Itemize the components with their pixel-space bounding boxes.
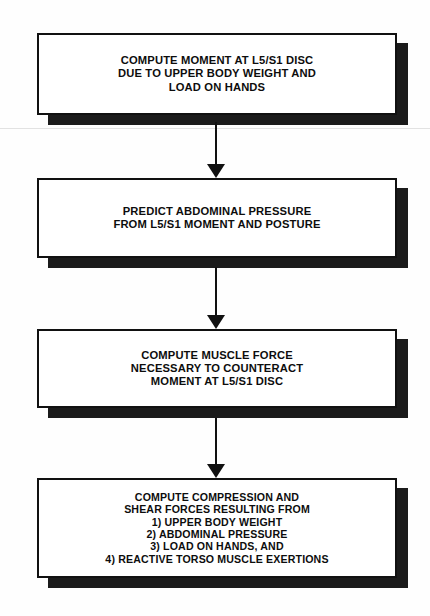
flowchart-canvas: COMPUTE MOMENT AT L5/S1 DISC DUE TO UPPE… (0, 0, 430, 616)
flow-node-4-label: COMPUTE COMPRESSION AND SHEAR FORCES RES… (97, 491, 336, 565)
flow-node-4[interactable]: COMPUTE COMPRESSION AND SHEAR FORCES RES… (37, 478, 397, 578)
flow-node-3[interactable]: COMPUTE MUSCLE FORCE NECESSARY TO COUNTE… (37, 329, 397, 408)
arrow-stem (215, 418, 217, 464)
flow-node-2[interactable]: PREDICT ABDOMINAL PRESSURE FROM L5/S1 MO… (37, 178, 397, 258)
flow-node-2-label: PREDICT ABDOMINAL PRESSURE FROM L5/S1 MO… (105, 205, 328, 231)
flow-arrow-1-2 (207, 122, 225, 178)
arrow-head-icon (207, 464, 225, 478)
flow-node-4-box: COMPUTE COMPRESSION AND SHEAR FORCES RES… (37, 478, 397, 578)
flow-node-1-label: COMPUTE MOMENT AT L5/S1 DISC DUE TO UPPE… (110, 54, 324, 94)
arrow-head-icon (207, 164, 225, 178)
flow-node-3-label: COMPUTE MUSCLE FORCE NECESSARY TO COUNTE… (123, 349, 311, 389)
flow-node-1-box: COMPUTE MOMENT AT L5/S1 DISC DUE TO UPPE… (37, 33, 397, 115)
arrow-stem (215, 122, 217, 164)
flow-arrow-2-3 (207, 267, 225, 329)
arrow-stem (215, 267, 217, 315)
flow-node-1[interactable]: COMPUTE MOMENT AT L5/S1 DISC DUE TO UPPE… (37, 33, 397, 115)
flow-node-3-box: COMPUTE MUSCLE FORCE NECESSARY TO COUNTE… (37, 329, 397, 408)
flow-arrow-3-4 (207, 418, 225, 478)
flow-node-2-box: PREDICT ABDOMINAL PRESSURE FROM L5/S1 MO… (37, 178, 397, 258)
arrow-head-icon (207, 315, 225, 329)
